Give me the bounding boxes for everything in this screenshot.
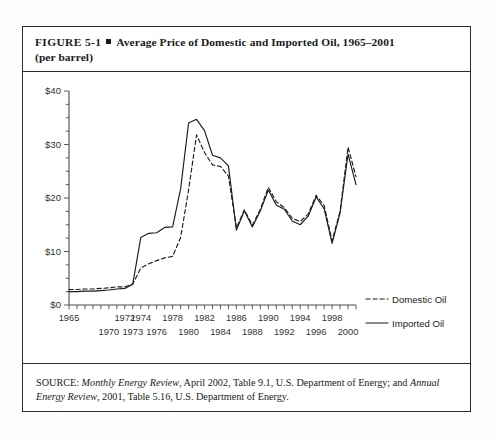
legend-label-domestic: Domestic Oil (392, 294, 446, 305)
x-axis-tick-label: 1982 (194, 313, 215, 323)
x-axis-tick-label: 1970 (99, 327, 120, 337)
x-axis-labels-upper: 196519721974197819821986199019941998 (59, 313, 343, 323)
x-axis-tick-label: 1986 (226, 313, 247, 323)
x-axis-tick-label: 1990 (258, 313, 279, 323)
x-axis-tick-label: 1974 (130, 313, 151, 323)
figure-title-line2: (per barrel) (35, 51, 93, 63)
source-publication-1: Monthly Energy Review (82, 377, 180, 388)
legend-label-imported: Imported Oil (392, 318, 444, 329)
figure-title: FIGURE 5-1Average Price of Domestic and … (23, 27, 470, 72)
source-text-2: , 2001, Table 5.16, U.S. Department of E… (97, 391, 289, 402)
source-label: SOURCE: (36, 377, 79, 388)
figure-number: FIGURE 5-1 (35, 36, 101, 48)
x-axis-tick-label: 1994 (290, 313, 311, 323)
x-axis-ticks (69, 305, 356, 309)
figure-page: FIGURE 5-1Average Price of Domestic and … (0, 0, 494, 438)
x-axis-tick-label: 1998 (322, 313, 343, 323)
figure-box: FIGURE 5-1Average Price of Domestic and … (22, 26, 471, 412)
x-axis-tick-label: 1978 (162, 313, 183, 323)
y-axis-tick-label: $0 (50, 299, 61, 310)
line-chart: $0$10$20$30$40 1965197219741978198219861… (23, 73, 469, 362)
y-axis-tick-label: $30 (45, 139, 61, 150)
x-axis-tick-label: 1965 (59, 313, 80, 323)
y-axis-tick-label: $10 (45, 246, 61, 257)
x-axis-tick-label: 1988 (242, 327, 263, 337)
y-axis-ticks (64, 91, 69, 305)
y-axis-labels: $0$10$20$30$40 (45, 85, 61, 310)
x-axis-tick-label: 1996 (306, 327, 327, 337)
chart-area: $0$10$20$30$40 1965197219741978198219861… (23, 73, 470, 364)
square-bullet-icon (106, 39, 111, 44)
x-axis-tick-label: 2000 (338, 327, 359, 337)
y-axis-tick-label: $40 (45, 85, 61, 96)
x-axis-tick-label: 1973 (122, 327, 143, 337)
x-axis-labels-lower: 197019731976198019841988199219962000 (99, 327, 359, 337)
y-axis-tick-label: $20 (45, 192, 61, 203)
x-axis-tick-label: 1976 (146, 327, 167, 337)
legend: Domestic Oil Imported Oil (366, 294, 446, 329)
x-axis-tick-label: 1992 (274, 327, 295, 337)
series-line-imported-oil (69, 119, 356, 291)
x-axis-tick-label: 1984 (210, 327, 231, 337)
figure-title-line1: Average Price of Domestic and Imported O… (116, 36, 394, 48)
series-line-domestic-oil (69, 135, 356, 290)
source-note: SOURCE: Monthly Energy Review, April 200… (23, 367, 470, 411)
x-axis-tick-label: 1980 (178, 327, 199, 337)
source-text-1: , April 2002, Table 9.1, U.S. Department… (179, 377, 410, 388)
